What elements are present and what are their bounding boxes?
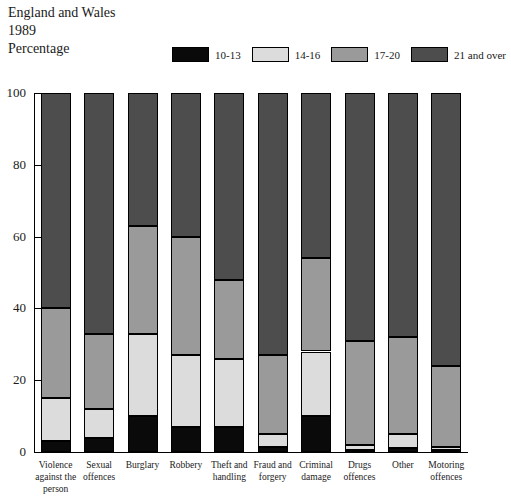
bar-segment	[128, 334, 158, 417]
bar-column	[171, 93, 201, 452]
bar-column	[128, 93, 158, 452]
bar-segment	[171, 427, 201, 452]
bar-segment	[128, 226, 158, 334]
bar-segment	[214, 280, 244, 359]
bar-column	[214, 93, 244, 452]
bar-segment	[345, 93, 375, 341]
bar-segment	[345, 445, 375, 450]
y-tick-label: 100	[0, 85, 26, 101]
legend-label: 14-16	[295, 49, 321, 61]
legend-item: 17-20	[331, 47, 400, 62]
bar-column	[388, 93, 418, 452]
bar-segment	[41, 308, 71, 398]
bar-segment	[128, 416, 158, 452]
bar-segment	[171, 93, 201, 237]
bar-segment	[84, 93, 114, 334]
x-axis-label-line: offences	[334, 472, 385, 484]
bar-segment	[84, 409, 114, 438]
bar-column	[84, 93, 114, 452]
legend-item: 21 and over	[411, 47, 506, 62]
x-axis-label: Motoringoffences	[421, 460, 472, 484]
bar-segment	[431, 447, 461, 451]
legend-swatch-icon	[172, 47, 209, 62]
plot-area	[34, 93, 468, 452]
x-axis-line	[34, 452, 468, 453]
legend-item: 10-13	[172, 47, 241, 62]
bar-segment	[345, 341, 375, 445]
bar-segment	[258, 355, 288, 434]
bar-segment	[431, 93, 461, 366]
bar-segment	[171, 355, 201, 427]
chart-legend: 10-1314-1617-2021 and over	[172, 47, 511, 62]
bar-segment	[388, 434, 418, 448]
legend-item: 14-16	[252, 47, 321, 62]
legend-label: 10-13	[215, 49, 241, 61]
legend-swatch-icon	[411, 47, 448, 62]
x-axis-label-line: Motoring	[421, 460, 472, 472]
bar-column	[41, 93, 71, 452]
bar-column	[258, 93, 288, 452]
title-line-country: England and Wales	[8, 4, 115, 22]
bar-segment	[258, 434, 288, 447]
bar-segment	[41, 93, 71, 308]
bar-column	[431, 93, 461, 452]
legend-swatch-icon	[252, 47, 289, 62]
bar-segment	[431, 450, 461, 452]
bar-segment	[388, 448, 418, 452]
legend-swatch-icon	[331, 47, 368, 62]
bar-segment	[388, 93, 418, 337]
bar-segment	[84, 438, 114, 452]
bar-segment	[301, 416, 331, 452]
title-line-unit: Percentage	[8, 40, 115, 58]
bar-segment	[214, 93, 244, 280]
x-axis-label-line: person	[30, 484, 81, 496]
bar-segment	[301, 258, 331, 351]
chart-title-block: England and Wales 1989 Percentage	[8, 4, 115, 58]
bar-segment	[41, 398, 71, 441]
legend-label: 17-20	[374, 49, 400, 61]
bar-segment	[128, 93, 158, 226]
x-axis-label-line: offences	[73, 472, 124, 484]
bar-segment	[258, 93, 288, 355]
y-tick-label: 80	[0, 157, 26, 173]
bar-column	[301, 93, 331, 452]
legend-label: 21 and over	[454, 49, 506, 61]
y-tick-label: 20	[0, 372, 26, 388]
bar-segment	[301, 93, 331, 258]
y-tick-label: 0	[0, 444, 26, 460]
y-tick-label: 60	[0, 229, 26, 245]
bar-segment	[258, 447, 288, 452]
x-axis-label-line: offences	[421, 472, 472, 484]
bar-column	[345, 93, 375, 452]
bar-segment	[345, 450, 375, 452]
title-line-year: 1989	[8, 22, 115, 40]
bar-segment	[214, 427, 244, 452]
bar-segment	[84, 334, 114, 409]
y-tick-mark	[34, 452, 41, 453]
bar-segment	[388, 337, 418, 434]
bar-segment	[301, 352, 331, 417]
y-tick-label: 40	[0, 300, 26, 316]
bar-segment	[41, 441, 71, 452]
bar-segment	[431, 366, 461, 447]
bar-segment	[214, 359, 244, 427]
bar-segment	[171, 237, 201, 355]
